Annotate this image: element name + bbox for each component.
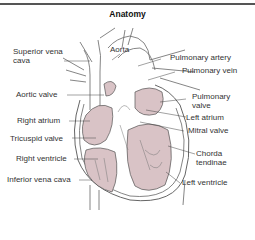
label-left-ventricle: Left ventricle xyxy=(182,178,227,187)
left-atrium-region xyxy=(135,88,163,115)
label-right-atrium: Right atrium xyxy=(17,116,60,125)
label-right-ventricle: Right ventricle xyxy=(16,154,67,163)
left-ventricle-region xyxy=(127,124,171,190)
label-tricuspid-valve: Tricuspid valve xyxy=(10,134,63,143)
label-pulmonary-artery: Pulmonary artery xyxy=(170,53,231,62)
label-mitral-valve: Mitral valve xyxy=(188,126,228,135)
label-left-atrium: Left atrium xyxy=(186,113,224,122)
label-aortic-valve: Aortic valve xyxy=(16,90,57,99)
label-chorda-tendinae: Chorda tendinae xyxy=(196,149,227,167)
label-aorta: Aorta xyxy=(110,45,129,54)
label-inferior-vena-cava: Inferior vena cava xyxy=(7,175,71,184)
label-pulmonary-vein: Pulmonary vein xyxy=(182,66,237,75)
label-superior-vena-cava: Superior vena cava xyxy=(13,47,63,65)
right-atrium-region xyxy=(82,105,112,145)
right-ventricle-region xyxy=(84,148,117,192)
label-pulmonary-valve: Pulmonary valve xyxy=(192,92,230,110)
aortic-valve-region xyxy=(104,81,116,96)
